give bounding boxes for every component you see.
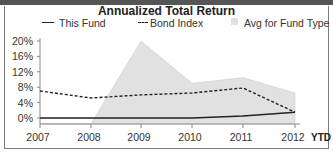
y-tick-label: 8% bbox=[18, 81, 33, 93]
x-tick-label: 2009 bbox=[127, 131, 151, 143]
y-tick-label: 4% bbox=[18, 97, 33, 109]
x-tick-label: 2011 bbox=[230, 131, 253, 143]
x-tick-label: 2010 bbox=[178, 131, 202, 143]
y-tick-label: 0% bbox=[18, 112, 33, 124]
y-tick-label: 12% bbox=[12, 66, 33, 78]
y-tick-label: 20% bbox=[12, 35, 33, 47]
plot-area: 0%4%8%12%16%20%200720082009201020112012Y… bbox=[0, 0, 333, 152]
y-tick-label: 16% bbox=[12, 50, 33, 62]
x-tick-label: 2007 bbox=[26, 131, 50, 143]
avg-fund-type-area bbox=[40, 41, 295, 124]
x-tick-label: 2008 bbox=[77, 131, 101, 143]
x-tick-label: 2012 bbox=[281, 131, 305, 143]
ytd-label: YTD bbox=[311, 132, 331, 143]
